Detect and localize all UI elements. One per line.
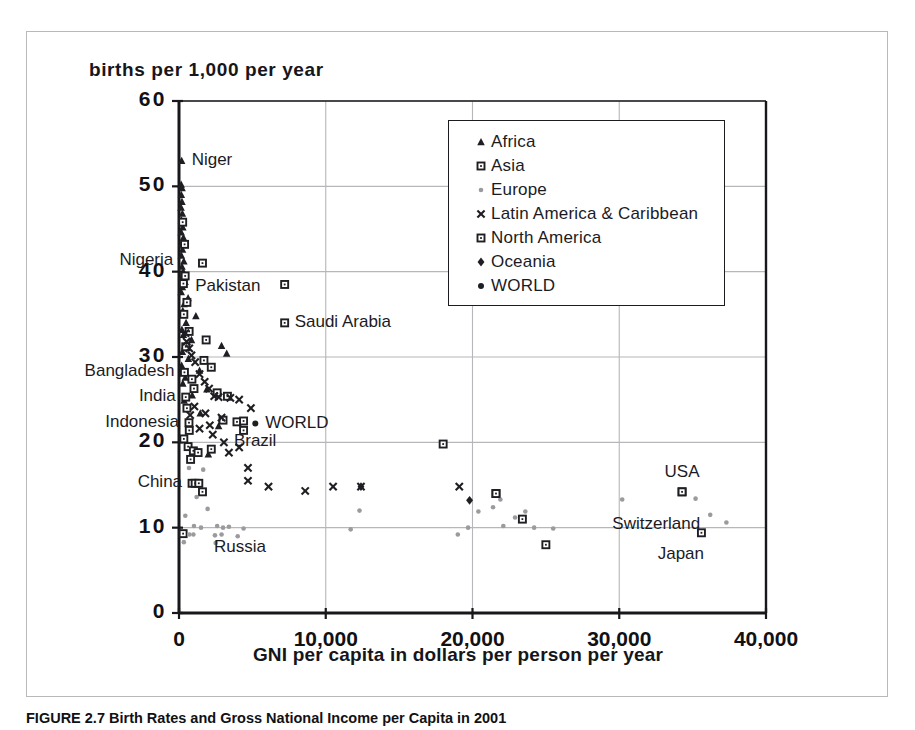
marker-small-dot — [476, 509, 481, 514]
series-oceania — [358, 482, 473, 504]
marker-square-center — [182, 221, 184, 223]
data-point-label: Switzerland — [27, 514, 700, 534]
marker-triangle — [477, 138, 485, 145]
marker-open-square — [679, 488, 686, 495]
legend-label: Asia — [491, 156, 525, 176]
marker-open-square — [186, 427, 193, 434]
marker-square-center — [442, 443, 444, 445]
marker-open-square — [195, 480, 202, 487]
marker-open-square — [181, 369, 188, 376]
figure-caption: FIGURE 2.7 Birth Rates and Gross Nationa… — [26, 710, 506, 726]
data-point-label: Niger — [192, 150, 233, 170]
legend-entry[interactable]: Asia — [471, 154, 724, 178]
data-point-label: Pakistan — [195, 276, 260, 296]
marker-open-square — [281, 319, 288, 326]
marker-x-cross — [477, 210, 484, 217]
marker-x-cross — [225, 449, 232, 456]
marker-open-square — [199, 260, 206, 267]
marker-square-center — [186, 407, 188, 409]
marker-square-center — [190, 459, 192, 461]
legend-label: WORLD — [491, 276, 555, 296]
marker-square-center — [186, 301, 188, 303]
legend-label: Oceania — [491, 252, 556, 272]
marker-open-square — [492, 490, 499, 497]
y-axis-tick-label: 20 — [97, 428, 167, 452]
marker-small-dot — [693, 496, 698, 501]
marker-small-dot — [182, 540, 187, 545]
marker-small-dot — [357, 508, 362, 513]
data-point-label: Russia — [214, 537, 266, 557]
marker-square-center — [184, 371, 186, 373]
marker-small-dot — [187, 466, 192, 471]
legend-label: Europe — [491, 180, 547, 200]
data-point-label: Nigeria — [27, 250, 173, 270]
marker-square-center — [193, 388, 195, 390]
marker-open-square — [179, 219, 186, 226]
legend-entry[interactable]: Europe — [471, 178, 724, 202]
data-point-label: Japan — [601, 544, 761, 564]
marker-small-dot — [724, 520, 729, 525]
series-north-america — [492, 488, 685, 497]
marker-square-center — [681, 491, 683, 493]
marker-triangle — [218, 342, 226, 349]
marker-small-dot — [523, 509, 528, 514]
marker-open-square — [203, 336, 210, 343]
legend-entry[interactable]: Latin America & Caribbean — [471, 202, 724, 226]
marker-square-center — [188, 422, 190, 424]
marker-square-center — [284, 284, 286, 286]
marker-open-square — [208, 446, 215, 453]
marker-square-center — [183, 438, 185, 440]
legend-entry[interactable]: WORLD — [471, 274, 724, 298]
marker-open-square — [181, 241, 188, 248]
marker-open-square — [281, 281, 288, 288]
marker-square-center — [187, 446, 189, 448]
legend-marker-open-square-icon — [471, 230, 491, 246]
data-point-label: India — [27, 386, 176, 406]
marker-open-square — [180, 280, 187, 287]
legend-marker-small-dot-icon — [471, 182, 491, 198]
marker-x-cross — [244, 464, 251, 471]
legend-entry[interactable]: Africa — [471, 130, 724, 154]
marker-open-square — [440, 441, 447, 448]
y-axis-tick-label: 50 — [97, 172, 167, 196]
marker-small-dot — [201, 467, 206, 472]
figure-frame: births per 1,000 per year 01020304050600… — [26, 31, 888, 697]
marker-square-center — [184, 243, 186, 245]
marker-small-dot — [491, 505, 496, 510]
y-axis-tick-label: 60 — [97, 87, 167, 111]
marker-x-cross — [247, 405, 254, 412]
marker-square-center — [495, 493, 497, 495]
legend-entry[interactable]: North America — [471, 226, 724, 250]
marker-x-cross — [202, 410, 209, 417]
marker-open-square — [188, 376, 195, 383]
legend-label: Africa — [491, 132, 536, 152]
data-point-label: Brazil — [234, 431, 277, 451]
legend-label: Latin America & Caribbean — [491, 204, 698, 224]
marker-x-cross — [192, 359, 199, 366]
marker-square-center — [184, 275, 186, 277]
chart-legend: AfricaAsiaEuropeLatin America & Caribbea… — [448, 120, 725, 306]
marker-square-center — [203, 360, 205, 362]
data-point-label: Saudi Arabia — [295, 312, 391, 332]
marker-x-cross — [196, 425, 203, 432]
marker-open-square — [190, 385, 197, 392]
marker-open-square — [542, 541, 549, 548]
marker-x-cross — [188, 352, 195, 359]
marker-open-square — [180, 435, 187, 442]
marker-square-center — [185, 396, 187, 398]
marker-open-square — [185, 419, 192, 426]
y-axis-tick-label: 0 — [97, 599, 167, 623]
marker-x-cross — [265, 483, 272, 490]
marker-open-square — [182, 272, 189, 279]
marker-square-center — [202, 491, 204, 493]
marker-x-cross — [191, 403, 198, 410]
series-world — [252, 421, 258, 427]
marker-square-center — [243, 420, 245, 422]
legend-entry[interactable]: Oceania — [471, 250, 724, 274]
marker-triangle — [223, 349, 231, 356]
legend-marker-triangle-icon — [471, 134, 491, 150]
marker-open-square — [478, 163, 485, 170]
marker-square-center — [205, 339, 207, 341]
marker-open-square — [182, 394, 189, 401]
marker-x-cross — [201, 378, 208, 385]
